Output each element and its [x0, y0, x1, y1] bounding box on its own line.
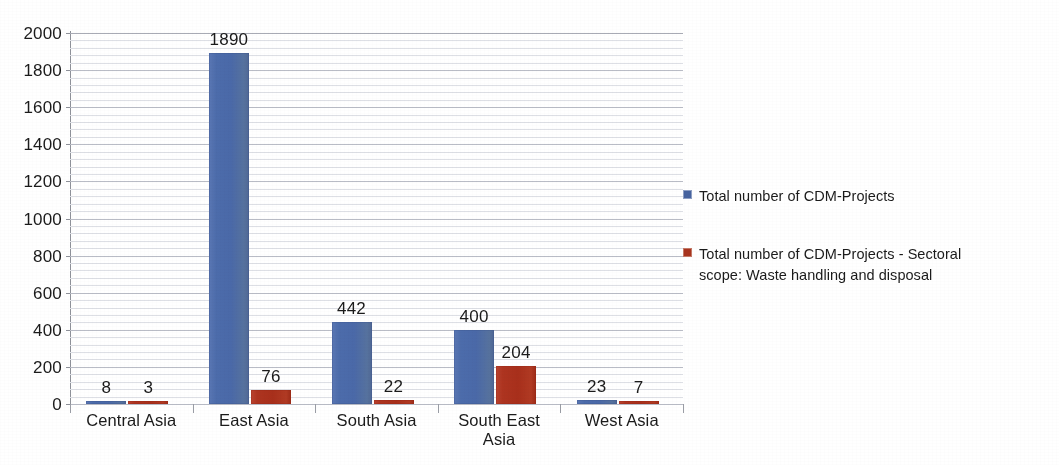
gridline-minor: [70, 337, 683, 338]
gridline-minor: [70, 137, 683, 138]
gridline-major: [70, 404, 683, 405]
y-axis-tick-label: 0: [4, 396, 62, 413]
gridline-major: [70, 293, 683, 294]
bar-data-label: 204: [502, 344, 531, 361]
gridline-major: [70, 367, 683, 368]
y-axis-tick-label: 400: [4, 321, 62, 338]
legend-label: Total number of CDM-Projects - Sectorals…: [699, 244, 961, 286]
legend-label: Total number of CDM-Projects: [699, 186, 895, 207]
gridline-minor: [70, 241, 683, 242]
bar-data-label: 22: [384, 378, 403, 395]
gridline-minor: [70, 129, 683, 130]
gridline-minor: [70, 374, 683, 375]
gridline-minor: [70, 352, 683, 353]
gridline-major: [70, 107, 683, 108]
legend-label-line: scope: Waste handling and disposal: [699, 265, 961, 286]
bar-waste-projects: [619, 401, 659, 404]
bar-total-projects: [454, 330, 494, 404]
gridline-minor: [70, 233, 683, 234]
gridline-minor: [70, 100, 683, 101]
bar-data-label: 8: [101, 379, 111, 396]
gridline-minor: [70, 167, 683, 168]
gridline-minor: [70, 85, 683, 86]
gridline-minor: [70, 359, 683, 360]
gridline-minor: [70, 122, 683, 123]
gridline-minor: [70, 345, 683, 346]
gridline-minor: [70, 397, 683, 398]
gridline-minor: [70, 226, 683, 227]
legend-item[interactable]: Total number of CDM-Projects - Sectorals…: [683, 244, 961, 286]
gridline-major: [70, 181, 683, 182]
bar-waste-projects: [251, 390, 291, 404]
bar-waste-projects: [374, 400, 414, 404]
x-axis-category-label: South EastAsia: [438, 411, 561, 449]
legend-label-line: Total number of CDM-Projects - Sectoral: [699, 244, 961, 265]
gridline-minor: [70, 196, 683, 197]
y-axis-tick-label: 1400: [4, 136, 62, 153]
gridline-minor: [70, 159, 683, 160]
gridline-minor: [70, 55, 683, 56]
gridline-minor: [70, 270, 683, 271]
gridline-minor: [70, 189, 683, 190]
gridline-minor: [70, 211, 683, 212]
gridline-minor: [70, 152, 683, 153]
gridline-major: [70, 144, 683, 145]
gridline-major: [70, 33, 683, 34]
y-axis-tick-label: 200: [4, 358, 62, 375]
bar-data-label: 1890: [210, 31, 249, 48]
y-axis-tick-label: 1600: [4, 99, 62, 116]
bar-data-label: 442: [337, 300, 366, 317]
y-axis-tick-label: 600: [4, 284, 62, 301]
gridline-minor: [70, 278, 683, 279]
legend-swatch-red: [683, 248, 692, 257]
bar-total-projects: [332, 322, 372, 404]
gridline-minor: [70, 285, 683, 286]
y-axis-tick-labels: 0200400600800100012001400160018002000: [0, 0, 62, 465]
gridline-minor: [70, 315, 683, 316]
category-label-line: East Asia: [193, 411, 316, 430]
bar-data-label: 76: [261, 368, 280, 385]
y-axis-tick-label: 1000: [4, 210, 62, 227]
legend-swatch-blue: [683, 190, 692, 199]
gridline-minor: [70, 174, 683, 175]
gridline-minor: [70, 92, 683, 93]
bar-data-label: 23: [587, 378, 606, 395]
x-axis-tick: [683, 404, 684, 413]
plot-area: 8318907644222400204237: [70, 33, 683, 404]
bar-chart: 0200400600800100012001400160018002000 83…: [0, 0, 1059, 465]
gridline-minor: [70, 322, 683, 323]
gridline-minor: [70, 248, 683, 249]
y-axis-tick-label: 1800: [4, 62, 62, 79]
bar-data-label: 7: [634, 379, 644, 396]
gridline-minor: [70, 78, 683, 79]
category-label-line: Central Asia: [70, 411, 193, 430]
category-label-line: Asia: [438, 430, 561, 449]
x-axis-category-label: Central Asia: [70, 411, 193, 430]
gridline-minor: [70, 63, 683, 64]
gridline-minor: [70, 115, 683, 116]
category-label-line: West Asia: [560, 411, 683, 430]
y-axis-tick-label: 2000: [4, 25, 62, 42]
y-axis-tick-label: 1200: [4, 173, 62, 190]
bar-total-projects: [86, 401, 126, 404]
bar-total-projects: [577, 400, 617, 404]
category-label-line: South East: [438, 411, 561, 430]
legend-item[interactable]: Total number of CDM-Projects: [683, 186, 895, 207]
x-axis-category-labels: Central AsiaEast AsiaSouth AsiaSouth Eas…: [70, 411, 683, 461]
x-axis-category-label: South Asia: [315, 411, 438, 430]
gridline-major: [70, 70, 683, 71]
gridline-major: [70, 330, 683, 331]
x-axis-category-label: East Asia: [193, 411, 316, 430]
category-label-line: South Asia: [315, 411, 438, 430]
y-axis-tick-label: 800: [4, 247, 62, 264]
gridline-minor: [70, 40, 683, 41]
bar-waste-projects: [496, 366, 536, 404]
gridline-major: [70, 256, 683, 257]
bar-data-label: 3: [143, 379, 153, 396]
gridline-minor: [70, 204, 683, 205]
legend-label-line: Total number of CDM-Projects: [699, 186, 895, 207]
x-axis-category-label: West Asia: [560, 411, 683, 430]
bar-waste-projects: [128, 401, 168, 404]
gridline-major: [70, 219, 683, 220]
gridline-minor: [70, 308, 683, 309]
